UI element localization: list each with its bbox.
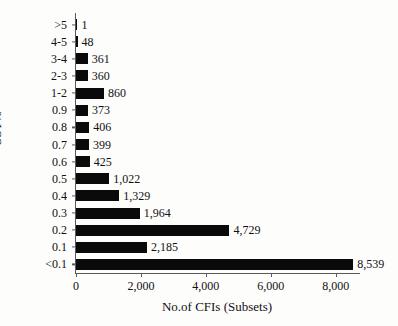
bar xyxy=(76,259,353,270)
bar xyxy=(76,105,88,116)
y-tick-label: 3-4 xyxy=(51,51,67,66)
y-tick-label: <0.1 xyxy=(45,257,67,272)
bar-row: 425 xyxy=(76,156,360,167)
bar-value-label: 1,964 xyxy=(140,206,171,221)
y-tick-label: 0.9 xyxy=(52,103,67,118)
x-tick-label: 4,000 xyxy=(192,279,219,294)
bar-value-label: 4,729 xyxy=(229,223,260,238)
bar-value-label: 1,329 xyxy=(119,188,150,203)
bar-row: 373 xyxy=(76,105,360,116)
bar-chart: SST% No.of CFIs (Subsets) >54-53-42-31-2… xyxy=(0,0,398,326)
bar xyxy=(76,173,109,184)
y-tick-label: >5 xyxy=(54,17,67,32)
bar xyxy=(76,53,88,64)
x-tick-mark xyxy=(76,273,77,277)
bar-row: 406 xyxy=(76,122,360,133)
bar xyxy=(76,190,119,201)
y-tick-label: 1-2 xyxy=(51,86,67,101)
bar-row: 2,185 xyxy=(76,242,360,253)
bar xyxy=(76,242,147,253)
bar-row: 361 xyxy=(76,53,360,64)
bar xyxy=(76,88,104,99)
x-tick-mark xyxy=(141,273,142,277)
x-tick-label: 8,000 xyxy=(322,279,349,294)
bar xyxy=(76,139,89,150)
x-tick-mark xyxy=(336,273,337,277)
bar-value-label: 406 xyxy=(89,120,111,135)
plot-area: 1483613608603734063994251,0221,3291,9644… xyxy=(76,16,360,273)
y-tick-label: 0.1 xyxy=(52,240,67,255)
bar xyxy=(76,70,88,81)
bar-value-label: 425 xyxy=(90,154,112,169)
x-axis-line xyxy=(75,273,360,274)
y-tick-label: 0.4 xyxy=(52,188,67,203)
y-tick-label: 0.6 xyxy=(52,154,67,169)
bar-row: 8,539 xyxy=(76,259,360,270)
x-tick-label: 2,000 xyxy=(127,279,154,294)
bar-value-label: 361 xyxy=(88,51,110,66)
bar-row: 360 xyxy=(76,70,360,81)
bar-value-label: 373 xyxy=(88,103,110,118)
x-tick-mark xyxy=(271,273,272,277)
y-tick-label: 0.2 xyxy=(52,223,67,238)
bar xyxy=(76,156,90,167)
bar-value-label: 2,185 xyxy=(147,240,178,255)
x-tick-mark xyxy=(206,273,207,277)
bar xyxy=(76,208,140,219)
bar-row: 1 xyxy=(76,19,360,30)
y-tick-label: 0.7 xyxy=(52,137,67,152)
bar-value-label: 8,539 xyxy=(353,257,384,272)
y-tick-label: 0.8 xyxy=(52,120,67,135)
bar-row: 4,729 xyxy=(76,225,360,236)
bar xyxy=(76,225,229,236)
bar-value-label: 48 xyxy=(78,34,94,49)
bar-value-label: 1,022 xyxy=(109,171,140,186)
bar-row: 1,329 xyxy=(76,190,360,201)
x-axis-title: No.of CFIs (Subsets) xyxy=(162,299,272,315)
bar-value-label: 360 xyxy=(88,68,110,83)
bar-row: 48 xyxy=(76,36,360,47)
y-tick-label: 0.3 xyxy=(52,206,67,221)
bar-value-label: 860 xyxy=(104,86,126,101)
bar-value-label: 1 xyxy=(77,17,87,32)
x-tick-label: 0 xyxy=(73,279,79,294)
bar xyxy=(76,122,89,133)
x-tick-label: 6,000 xyxy=(257,279,284,294)
bar-row: 1,022 xyxy=(76,173,360,184)
y-tick-label: 2-3 xyxy=(51,68,67,83)
y-tick-label: 4-5 xyxy=(51,34,67,49)
bar-row: 399 xyxy=(76,139,360,150)
bar-row: 860 xyxy=(76,88,360,99)
bar-value-label: 399 xyxy=(89,137,111,152)
bar-row: 1,964 xyxy=(76,208,360,219)
y-tick-label: 0.5 xyxy=(52,171,67,186)
y-axis-title: SST% xyxy=(0,111,5,145)
